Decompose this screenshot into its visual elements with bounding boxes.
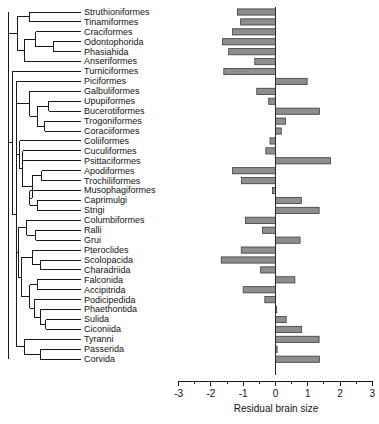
bar <box>276 128 282 134</box>
taxa-label-group: StruthioniformesTinamiformesCraciformesO… <box>84 7 156 364</box>
taxon-label: Struthioniformes <box>84 7 150 17</box>
axis-tick-label: 2 <box>337 388 343 399</box>
axis-tick-label: 3 <box>370 388 376 399</box>
bar <box>233 168 276 174</box>
axis-tick-label: 0 <box>273 388 279 399</box>
taxon-label: Accipitrida <box>84 285 126 295</box>
taxon-label: Charadriida <box>84 265 131 275</box>
bar <box>276 118 286 124</box>
taxon-label: Corvida <box>84 354 115 364</box>
taxon-label: Phaethontida <box>84 304 137 314</box>
bar <box>276 197 302 203</box>
bar <box>276 326 302 332</box>
taxon-label: Anseriformes <box>84 56 138 66</box>
bar <box>237 9 275 15</box>
bar <box>241 19 276 25</box>
axis-tick-label: 1 <box>305 388 311 399</box>
taxon-label: Sulida <box>84 314 109 324</box>
bar <box>224 68 276 74</box>
bar <box>255 59 276 65</box>
bar <box>276 158 331 164</box>
figure-panel: StruthioniformesTinamiformesCraciformesO… <box>0 0 379 424</box>
bar <box>276 108 320 114</box>
taxon-label: Coliiformes <box>84 136 130 146</box>
taxon-label: Piciformes <box>84 76 127 86</box>
x-axis-title: Residual brain size <box>234 403 319 414</box>
taxon-label: Turniciformes <box>84 66 139 76</box>
taxon-label: Coraciiformes <box>84 126 140 136</box>
bar <box>276 207 320 213</box>
bar <box>241 247 275 253</box>
taxon-label: Tyranni <box>84 334 114 344</box>
taxon-label: Odontophorida <box>84 37 144 47</box>
axis-tick-label: -3 <box>174 388 183 399</box>
taxon-label: Craciformes <box>84 27 133 37</box>
bar <box>276 316 287 322</box>
taxon-label: Columbiformes <box>84 215 145 225</box>
taxon-label: Cuculiformes <box>84 146 137 156</box>
bar <box>276 277 295 283</box>
axis-tick-label: -1 <box>239 388 248 399</box>
taxon-label: Galbuliformes <box>84 86 140 96</box>
taxon-label: Ralli <box>84 225 102 235</box>
bar <box>229 49 276 55</box>
taxon-label: Bucerotiformes <box>84 106 145 116</box>
taxon-label: Podicipedida <box>84 295 136 305</box>
taxon-label: Passerida <box>84 344 124 354</box>
bar <box>265 297 276 303</box>
taxon-label: Trochiliformes <box>84 176 141 186</box>
bar <box>276 336 320 342</box>
bar <box>266 148 276 154</box>
bar <box>245 217 275 223</box>
bar <box>243 287 275 293</box>
axis-tick-label: -2 <box>206 388 215 399</box>
bar <box>276 237 301 243</box>
bar <box>269 98 276 104</box>
taxon-label: Phasiahida <box>84 47 129 57</box>
taxon-label: Upupiformes <box>84 96 136 106</box>
bar <box>276 78 308 84</box>
taxon-label: Tinamiformes <box>84 17 139 27</box>
taxon-label: Ciconiida <box>84 324 121 334</box>
taxon-label: Grui <box>84 235 101 245</box>
bar <box>221 257 275 263</box>
taxon-label: Psittaciformes <box>84 156 141 166</box>
bar <box>233 29 276 35</box>
taxon-label: Strigi <box>84 205 105 215</box>
taxon-label: Musophagiformes <box>84 185 156 195</box>
x-axis: -3-2-10123 <box>174 381 375 399</box>
bar <box>261 267 276 273</box>
bar <box>276 356 320 362</box>
phylogeny-bar-figure: StruthioniformesTinamiformesCraciformesO… <box>0 0 379 424</box>
taxon-label: Trogoniformes <box>84 116 142 126</box>
bar <box>263 227 276 233</box>
taxon-label: Scolopacida <box>84 255 133 265</box>
taxon-label: Caprimulgi <box>84 195 127 205</box>
taxon-label: Apodiformes <box>84 166 135 176</box>
bar <box>270 138 275 144</box>
bar <box>242 178 276 184</box>
phylogenetic-tree <box>8 12 81 359</box>
bar <box>257 88 276 94</box>
taxon-label: Falconida <box>84 275 123 285</box>
taxon-label: Pteroclides <box>84 245 129 255</box>
bar <box>223 39 276 45</box>
